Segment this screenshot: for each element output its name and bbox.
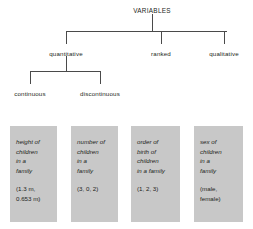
example-box-height-of-children: height of children in a family (1.3 m, 0… (10, 126, 57, 222)
example-line: family (200, 166, 240, 176)
example-line: children (77, 147, 115, 157)
example-value: (3, 0, 2) (77, 184, 116, 194)
example-values: (1.3 m, 0.653 m) (16, 184, 55, 204)
node-variables: VARIABLES (133, 8, 171, 14)
example-value: (male, (200, 184, 241, 194)
node-ranked: ranked (151, 51, 171, 57)
example-line: in a (77, 156, 115, 166)
example-description: order of birth of children in a family (137, 137, 177, 175)
example-description: height of children in a family (16, 137, 54, 175)
example-line: children (16, 147, 54, 157)
example-description: number of children in a family (77, 137, 115, 175)
example-values: (1, 2, 3) (137, 184, 178, 194)
example-box-order-of-birth: order of birth of children in a family (… (131, 126, 180, 222)
example-value: (1.3 m, (16, 184, 55, 194)
node-quantitative: quantitative (49, 51, 82, 57)
example-description: sex of children in a family (200, 137, 240, 175)
example-line: sex of (200, 137, 240, 147)
example-line: in a (16, 156, 54, 166)
example-values: (male, female) (200, 184, 241, 204)
example-line: height of (16, 137, 54, 147)
node-continuous: continuous (14, 91, 45, 97)
example-line: birth of (137, 147, 177, 157)
tree-connector-lines (0, 0, 253, 115)
node-qualitative: qualitative (209, 51, 239, 57)
example-value: female) (200, 194, 241, 204)
example-line: number of (77, 137, 115, 147)
example-value: (1, 2, 3) (137, 184, 178, 194)
example-value: 0.653 m) (16, 194, 55, 204)
example-line: family (77, 166, 115, 176)
example-box-number-of-children: number of children in a family (3, 0, 2) (71, 126, 118, 222)
node-discontinuous: discontinuous (80, 91, 120, 97)
example-line: children (137, 156, 177, 166)
example-line: in a family (137, 166, 177, 176)
example-values: (3, 0, 2) (77, 184, 116, 194)
example-line: children (200, 147, 240, 157)
example-line: in a (200, 156, 240, 166)
variables-classification-diagram: VARIABLES quantitative ranked qualitativ… (0, 0, 253, 229)
example-line: family (16, 166, 54, 176)
example-box-sex-of-children: sex of children in a family (male, femal… (194, 126, 243, 222)
example-line: order of (137, 137, 177, 147)
